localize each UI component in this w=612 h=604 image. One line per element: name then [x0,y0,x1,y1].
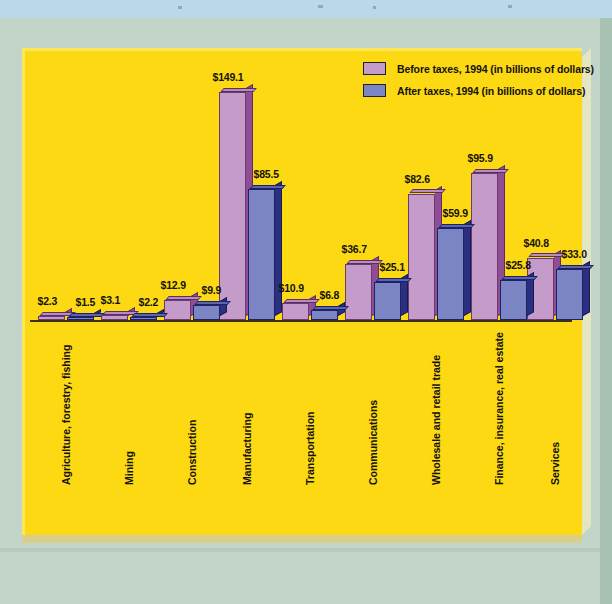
bar-top-face [438,224,475,228]
bar-before-taxes [164,300,191,320]
legend-swatch-after-taxes [363,84,386,97]
page-mat-inner-edge [0,548,600,552]
bar-after-taxes [248,189,275,320]
legend-label-after-taxes: After taxes, 1994 (in billions of dollar… [397,85,585,97]
category-label: Construction [186,420,198,485]
bar-top-face [472,169,509,173]
category-label: Agriculture, forestry, fishing [60,345,72,485]
bar-side-face [275,181,282,316]
bar-after-taxes [437,228,464,320]
bar-front-face [193,305,220,320]
legend-swatch-before-taxes [363,62,386,75]
bar-top-face [131,313,168,317]
bar-front-face [219,92,246,320]
bar-before-taxes [282,303,309,320]
bar-value-label: $12.9 [161,279,186,291]
bar-top-face [194,301,231,305]
bar-front-face [345,264,372,320]
bar-front-face [38,316,65,320]
bar-value-label: $85.5 [254,168,279,180]
bar-before-taxes [38,316,65,320]
bar-front-face [164,300,191,320]
page-mat-shadow [600,18,612,604]
bar-front-face [408,194,435,320]
bar-value-label: $149.1 [213,71,244,83]
bar-front-face [248,189,275,320]
bar-before-taxes [408,194,435,320]
scan-speck [178,6,182,9]
scan-speck [373,6,376,9]
bar-before-taxes [219,92,246,320]
bar-value-label: $40.8 [524,237,549,249]
bar-front-face [311,310,338,320]
category-label: Wholesale and retail trade [430,355,442,485]
bar-after-taxes [556,269,583,320]
bar-front-face [556,269,583,320]
bar-top-face [220,88,257,92]
category-label: Communications [367,400,379,485]
bar-top-face [409,189,446,193]
bar-before-taxes [101,315,128,320]
bar-value-label: $25.1 [380,261,405,273]
bar-front-face [101,315,128,320]
bar-top-face [249,185,286,189]
bar-after-taxes [193,305,220,320]
legend-item: After taxes, 1994 (in billions of dollar… [363,84,594,97]
bar-front-face [500,280,527,320]
bar-after-taxes [67,317,94,320]
bar-value-label: $2.3 [38,295,58,307]
bar-after-taxes [500,280,527,320]
scanned-page: $2.3$1.5$3.1$2.2$12.9$9.9$149.1$85.5$10.… [0,0,612,604]
bar-top-face [528,253,565,257]
bar-front-face [471,173,498,320]
legend-label-before-taxes: Before taxes, 1994 (in billions of dolla… [397,63,594,75]
bar-front-face [374,282,401,320]
bar-value-label: $3.1 [101,294,121,306]
category-label: Services [549,442,561,485]
bar-side-face [464,220,471,316]
category-label: Mining [123,451,135,485]
bar-top-face [68,313,105,317]
bar-front-face [67,317,94,320]
bar-top-face [375,278,412,282]
bar-value-label: $9.9 [202,284,222,296]
bar-chart-plot: $2.3$1.5$3.1$2.2$12.9$9.9$149.1$85.5$10.… [22,48,582,535]
chart-legend: Before taxes, 1994 (in billions of dolla… [363,62,594,106]
bar-value-label: $33.0 [562,248,587,260]
bar-after-taxes [374,282,401,320]
bar-front-face [437,228,464,320]
bar-front-face [282,303,309,320]
bar-value-label: $95.9 [468,152,493,164]
bar-value-label: $25.8 [506,259,531,271]
bar-top-face [346,260,383,264]
bar-value-label: $82.6 [405,173,430,185]
bar-value-label: $36.7 [342,243,367,255]
category-axis-line [30,320,572,322]
bar-value-label: $2.2 [139,296,159,308]
bar-after-taxes [311,310,338,320]
bar-top-face [312,306,349,310]
bar-top-face [501,276,538,280]
bar-value-label: $59.9 [443,207,468,219]
category-label: Manufacturing [241,413,253,485]
bar-before-taxes [345,264,372,320]
bar-value-label: $1.5 [76,296,96,308]
bar-value-label: $10.9 [279,282,304,294]
category-label: Finance, insurance, real estate [493,332,505,485]
bar-side-face [583,261,590,316]
legend-item: Before taxes, 1994 (in billions of dolla… [363,62,594,75]
bar-top-face [165,296,202,300]
scan-speck [318,5,323,8]
bar-top-face [557,265,594,269]
panel-bottom-bevel [22,535,582,543]
bar-before-taxes [471,173,498,320]
bar-top-face [283,299,320,303]
bar-value-label: $6.8 [320,289,340,301]
category-label: Transportation [304,411,316,485]
scan-speck [508,5,512,8]
